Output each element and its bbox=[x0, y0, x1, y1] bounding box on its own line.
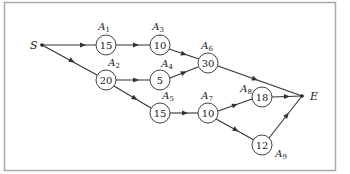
end-dot bbox=[300, 94, 304, 98]
node-a2-value: 20 bbox=[100, 75, 113, 86]
node-a6-value: 30 bbox=[202, 58, 215, 69]
node-a3-value: 10 bbox=[154, 40, 167, 51]
node-a1-value: 15 bbox=[100, 40, 113, 51]
node-a5-value: 15 bbox=[154, 108, 167, 119]
node-a9-value: 12 bbox=[256, 140, 269, 151]
diagram-frame bbox=[5, 3, 336, 171]
node-a7-value: 10 bbox=[202, 108, 215, 119]
node-a4-value: 5 bbox=[157, 75, 163, 86]
start-dot bbox=[40, 43, 44, 47]
end-label: E bbox=[309, 90, 318, 103]
activity-network-diagram: S E 15 A1 20 A2 10 A3 5 A4 15 A5 30 A6 bbox=[0, 0, 350, 174]
start-label: S bbox=[30, 39, 38, 52]
node-a8-value: 18 bbox=[256, 92, 269, 103]
